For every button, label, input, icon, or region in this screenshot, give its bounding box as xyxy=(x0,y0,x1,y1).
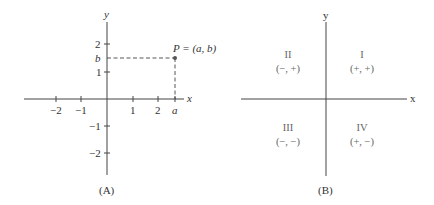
x-tick-label: −1 xyxy=(75,104,87,116)
x-tick-label-a: a xyxy=(172,104,178,116)
quadrant-i: I (+, +) xyxy=(350,49,375,75)
svg-text:III: III xyxy=(283,122,294,133)
point-p xyxy=(173,56,177,60)
y-tick-label: 2 xyxy=(95,38,101,50)
svg-text:I: I xyxy=(360,49,364,60)
panel-a: y x −2 −1 1 2 a 2 b 1 −1 −2 P = (a, xyxy=(24,8,217,197)
quadrant-ii: II (−, +) xyxy=(276,49,301,75)
y-tick-label-b: b xyxy=(95,52,101,64)
x-axis-label: x xyxy=(186,92,192,104)
y-axis-label: y xyxy=(103,8,109,20)
svg-text:II: II xyxy=(285,49,292,60)
y-tick-label: 1 xyxy=(96,66,102,78)
x-tick-label: −2 xyxy=(50,104,62,116)
point-p-label: P = (a, b) xyxy=(172,42,217,55)
x-tick-label: 2 xyxy=(155,104,161,116)
svg-text:IV: IV xyxy=(356,122,367,133)
caption-a: (A) xyxy=(99,184,115,197)
panel-b: y x II (−, +) I (+, +) III (−, −) IV (+,… xyxy=(241,9,416,197)
x-tick-label: 1 xyxy=(130,104,136,116)
y-axis-label: y xyxy=(323,9,329,21)
y-tick-label: −1 xyxy=(89,120,101,132)
svg-text:(−, +): (−, +) xyxy=(276,63,301,75)
x-axis-label: x xyxy=(410,92,416,104)
coordinate-figures: y x −2 −1 1 2 a 2 b 1 −1 −2 P = (a, xyxy=(0,0,434,205)
caption-b: (B) xyxy=(318,184,333,197)
y-tick-label: −2 xyxy=(89,147,101,159)
quadrant-iv: IV (+, −) xyxy=(350,122,375,148)
svg-text:(−, −): (−, −) xyxy=(276,136,301,148)
svg-text:(+, +): (+, +) xyxy=(350,63,375,75)
svg-text:(+, −): (+, −) xyxy=(350,136,375,148)
quadrant-iii: III (−, −) xyxy=(276,122,301,148)
